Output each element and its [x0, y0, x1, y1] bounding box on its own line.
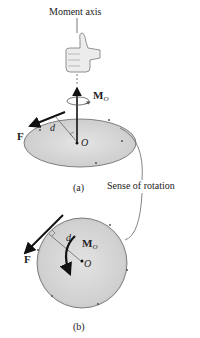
sense-connector-b	[125, 193, 142, 240]
caption-b: (b)	[73, 321, 85, 332]
force-label-a: F	[17, 130, 24, 142]
force-label-b: F	[24, 253, 31, 265]
moment-label-a: MO	[93, 89, 108, 103]
point-label-b: O	[84, 258, 91, 269]
distance-label-a: d	[50, 122, 55, 133]
caption-a: (a)	[73, 182, 84, 193]
sense-of-rotation-label: Sense of rotation	[107, 180, 175, 191]
moment-label-b: MO	[82, 237, 97, 251]
right-hand-icon	[66, 33, 100, 72]
disk-a	[24, 119, 136, 167]
disk-b	[37, 218, 127, 308]
distance-label-b: d	[66, 232, 71, 243]
moment-figure: Moment axis MO F d O (a) Sense of rotati…	[0, 0, 200, 338]
diagram-svg	[0, 0, 200, 338]
moment-axis-label: Moment axis	[49, 6, 102, 17]
point-label-a: O	[81, 137, 88, 148]
